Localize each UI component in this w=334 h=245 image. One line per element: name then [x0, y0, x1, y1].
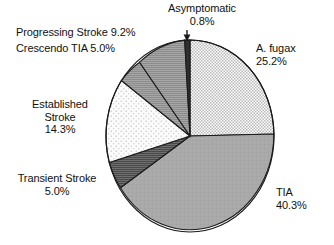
pie-chart-figure: Asymptomatic 0.8% Progressing Stroke 9.2…	[0, 0, 334, 245]
slice-label-crescendo-tia: Crescendo TIA 5.0%	[16, 42, 186, 55]
slice-label-asymptomatic: Asymptomatic 0.8%	[146, 2, 258, 27]
slice-label-progressing-stroke: Progressing Stroke 9.2%	[16, 26, 186, 39]
slice-label-transient-stroke: Transient Stroke 5.0%	[4, 172, 110, 197]
slice-label-a-fugax: A. fugax 25.2%	[256, 42, 332, 67]
slice-label-tia: TIA 40.3%	[276, 186, 330, 211]
slice-label-established-stroke: Established Stroke 14.3%	[18, 98, 102, 136]
